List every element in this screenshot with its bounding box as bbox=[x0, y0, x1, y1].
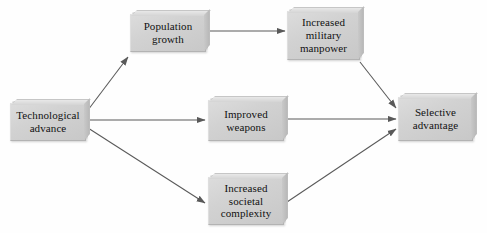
node-label: Technological advance bbox=[13, 109, 82, 135]
node-label: Increased societal complexity bbox=[218, 182, 275, 221]
edge-tech-to-population bbox=[88, 57, 128, 110]
node-selective-advantage[interactable]: Selective advantage bbox=[398, 97, 473, 141]
edge-tech-to-complexity bbox=[88, 128, 205, 203]
node-improved-weapons[interactable]: Improved weapons bbox=[208, 100, 284, 141]
node-increased-societal-complexity[interactable]: Increased societal complexity bbox=[208, 177, 284, 225]
node-population-growth[interactable]: Population growth bbox=[130, 14, 206, 52]
node-increased-military-manpower[interactable]: Increased military manpower bbox=[287, 11, 360, 60]
edge-manpower-to-selective bbox=[360, 62, 396, 108]
node-label: Population growth bbox=[141, 20, 196, 46]
edge-complexity-to-selective bbox=[287, 129, 396, 202]
node-label: Increased military manpower bbox=[297, 16, 350, 55]
node-label: Selective advantage bbox=[410, 106, 462, 132]
node-technological-advance[interactable]: Technological advance bbox=[10, 103, 86, 141]
node-label: Improved weapons bbox=[221, 108, 271, 134]
flow-diagram: Technological advance Population growth … bbox=[0, 0, 487, 233]
